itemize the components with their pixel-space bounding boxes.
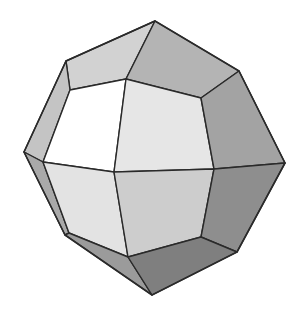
polyhedron-svg (0, 0, 308, 309)
polyhedron-figure (0, 0, 308, 309)
right-lower-face (201, 163, 285, 252)
polyhedron-faces (24, 21, 285, 295)
